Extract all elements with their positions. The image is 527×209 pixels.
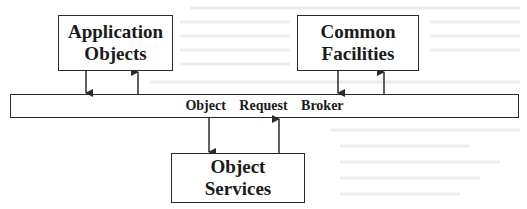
- common-facilities-box: Common Facilities: [297, 15, 419, 71]
- common-facilities-label-line1: Common: [321, 21, 396, 43]
- application-objects-box: Application Objects: [58, 15, 173, 71]
- object-request-broker-bar: Object Request Broker: [10, 94, 519, 118]
- object-services-label-line2: Services: [205, 178, 271, 200]
- application-objects-label-line1: Application: [68, 21, 163, 43]
- object-services-label-line1: Object: [211, 156, 266, 178]
- object-request-broker-label: Object Request Broker: [185, 98, 343, 114]
- common-facilities-label-line2: Facilities: [322, 43, 395, 65]
- object-services-box: Object Services: [171, 153, 305, 203]
- application-objects-label-line2: Objects: [84, 43, 146, 65]
